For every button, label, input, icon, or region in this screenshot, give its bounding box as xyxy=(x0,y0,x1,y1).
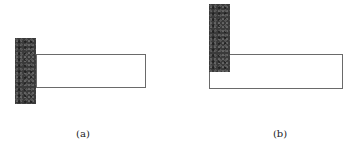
support-block-a xyxy=(15,38,36,104)
support-block-b xyxy=(209,4,230,72)
panel-label-a: (a) xyxy=(76,128,90,139)
beam-a xyxy=(36,54,146,88)
panel-label-b: (b) xyxy=(273,128,287,139)
